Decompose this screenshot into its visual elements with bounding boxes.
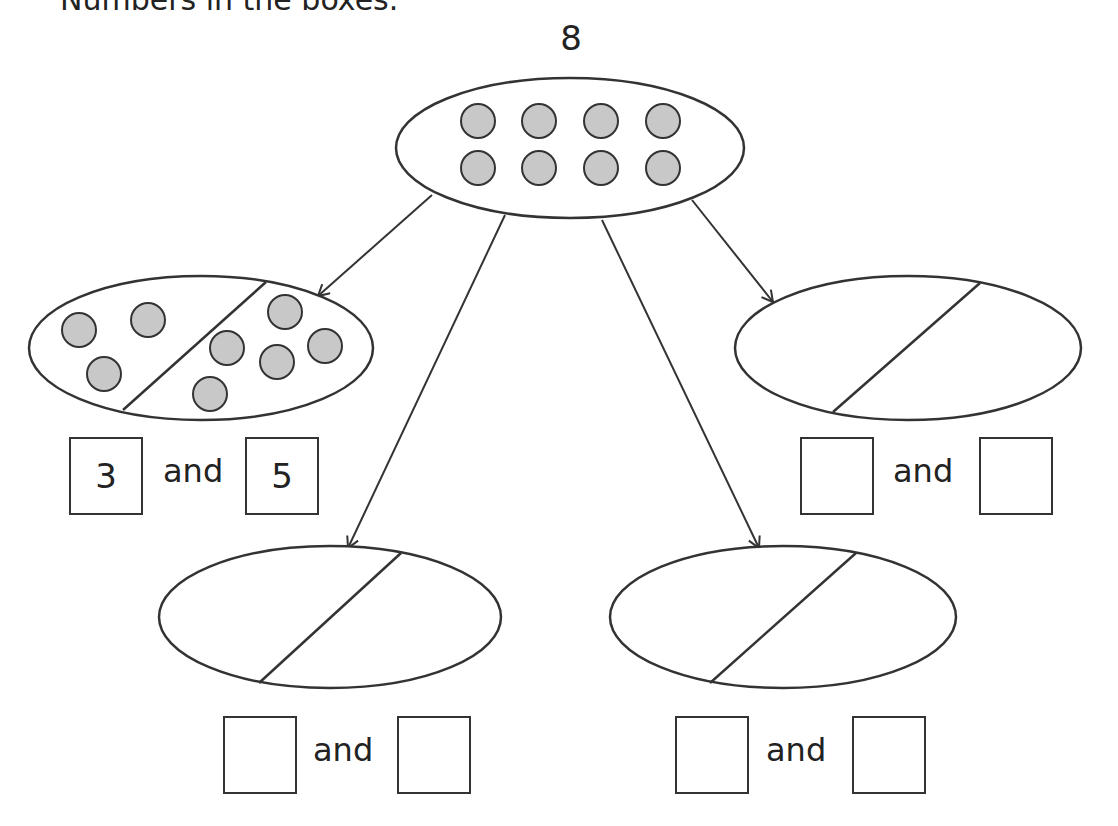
arrow-to-bottom-left xyxy=(348,215,505,548)
arrow-to-top-left xyxy=(318,195,432,296)
part-whole-diagram xyxy=(0,0,1118,826)
answer-box-top-left-a[interactable]: 3 xyxy=(69,437,143,515)
and-label: and xyxy=(163,452,223,490)
arrow-to-bottom-right xyxy=(602,220,759,548)
answer-box-top-right-b[interactable] xyxy=(979,437,1053,515)
partition-top-left xyxy=(29,276,373,420)
answer-box-bottom-right-b[interactable] xyxy=(852,716,926,794)
arrow-to-top-right xyxy=(692,200,773,302)
and-label: and xyxy=(893,452,953,490)
partition-top-right xyxy=(735,276,1081,420)
arrows xyxy=(318,195,773,548)
partition-bottom-right xyxy=(610,546,956,688)
answer-box-bottom-left-a[interactable] xyxy=(223,716,297,794)
partition-bottom-left xyxy=(159,546,501,688)
and-label: and xyxy=(766,731,826,769)
answer-box-top-left-b[interactable]: 5 xyxy=(245,437,319,515)
answer-box-bottom-left-b[interactable] xyxy=(397,716,471,794)
whole-ellipse xyxy=(396,78,744,218)
answer-box-top-right-a[interactable] xyxy=(800,437,874,515)
and-label: and xyxy=(313,731,373,769)
answer-box-bottom-right-a[interactable] xyxy=(675,716,749,794)
